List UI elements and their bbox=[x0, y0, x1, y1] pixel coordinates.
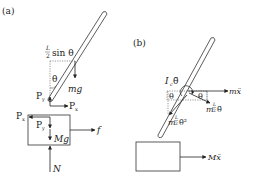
svg-text:L: L bbox=[174, 115, 178, 120]
weight-rod-label: mg bbox=[68, 84, 83, 94]
pin-force-x-rod-label: P x bbox=[69, 101, 78, 112]
svg-text:θ̈: θ̈ bbox=[217, 105, 222, 114]
svg-text:θ̈: θ̈ bbox=[173, 76, 178, 86]
normal-force-label: N bbox=[52, 164, 62, 174]
svg-text:L: L bbox=[45, 44, 50, 51]
svg-text:sin θ: sin θ bbox=[52, 48, 74, 58]
block-force-y-label: P y bbox=[36, 120, 45, 132]
centripetal-force-label: m L 2 θ̇² bbox=[168, 115, 187, 127]
svg-text:2: 2 bbox=[213, 108, 216, 113]
panel-b-label: (b) bbox=[133, 38, 146, 48]
tangential-force-label: m L 2 θ̈ bbox=[206, 102, 222, 114]
svg-text:y: y bbox=[41, 96, 45, 103]
svg-text:y: y bbox=[41, 125, 45, 132]
block-force-x-label: P x bbox=[16, 111, 25, 122]
inertia-moment-label: I c θ̈ bbox=[164, 76, 178, 87]
panel-a: (a) L 2 sin θ θ mg P y bbox=[2, 6, 107, 174]
friction-label: f bbox=[96, 125, 102, 135]
svg-text:I: I bbox=[164, 76, 169, 86]
free-body-diagram: (a) L 2 sin θ θ mg P y bbox=[0, 0, 255, 187]
panel-a-label: (a) bbox=[2, 6, 14, 16]
svg-text:2: 2 bbox=[46, 52, 50, 59]
svg-text:2: 2 bbox=[175, 121, 178, 126]
rod-inertial-force-label: mẍ bbox=[229, 87, 242, 96]
svg-text:L: L bbox=[212, 102, 216, 107]
svg-text:θ̇²: θ̇² bbox=[179, 118, 187, 127]
pin-force-y-rod-label: P y bbox=[36, 91, 45, 103]
com-offset-label: L 2 sin θ bbox=[45, 44, 74, 59]
weight-block-label: Mg bbox=[53, 134, 69, 144]
angle-theta-left: θ bbox=[169, 92, 174, 101]
svg-text:x: x bbox=[75, 106, 78, 112]
angle-theta-a: θ bbox=[52, 74, 57, 84]
block-inertial-force-label: Mẍ bbox=[207, 153, 221, 162]
block-b bbox=[136, 142, 180, 171]
panel-b: (b) I c θ̈ θ θ mẍ m L 2 θ bbox=[133, 37, 242, 171]
svg-text:x: x bbox=[22, 116, 25, 122]
